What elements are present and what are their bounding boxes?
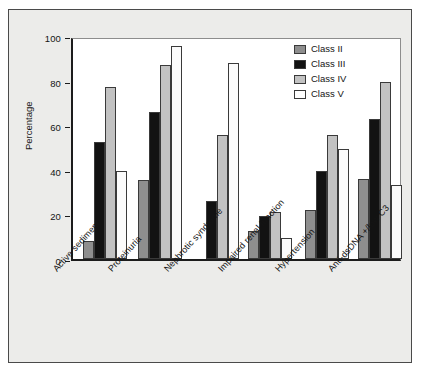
- legend-item[interactable]: Class III: [294, 58, 346, 70]
- legend-item[interactable]: Class V: [294, 88, 346, 100]
- legend-item[interactable]: Class II: [294, 43, 346, 55]
- y-tick-mark: [65, 216, 70, 217]
- bar[interactable]: [105, 87, 116, 259]
- y-tick-label: 100: [35, 33, 61, 44]
- bar[interactable]: [217, 135, 228, 259]
- y-tick-label: 60: [35, 122, 61, 133]
- y-tick-mark: [65, 38, 70, 39]
- bar[interactable]: [358, 179, 369, 259]
- y-tick-mark: [65, 172, 70, 173]
- bar[interactable]: [369, 119, 380, 259]
- chart-page: 020406080100 Percentage Active sedimentP…: [0, 0, 421, 373]
- legend-swatch-icon: [294, 75, 306, 84]
- y-tick-label: 20: [35, 211, 61, 222]
- bar[interactable]: [138, 180, 149, 259]
- plot-area: [71, 38, 401, 261]
- bar[interactable]: [149, 112, 160, 259]
- bar[interactable]: [94, 142, 105, 259]
- bar-group: [138, 39, 182, 259]
- legend-swatch-icon: [294, 90, 306, 99]
- figure-frame: 020406080100 Percentage Active sedimentP…: [8, 9, 412, 363]
- bar[interactable]: [160, 65, 171, 259]
- legend-label: Class III: [311, 59, 345, 69]
- legend-label: Class II: [311, 44, 343, 54]
- y-tick-label: 80: [35, 77, 61, 88]
- legend-label: Class IV: [311, 74, 346, 84]
- bar[interactable]: [391, 185, 402, 259]
- legend-label: Class V: [311, 89, 344, 99]
- legend-swatch-icon: [294, 60, 306, 69]
- bar[interactable]: [327, 135, 338, 259]
- legend-swatch-icon: [294, 45, 306, 54]
- y-axis-title: Percentage: [23, 101, 34, 150]
- chart-legend: Class IIClass IIIClass IVClass V: [294, 43, 346, 100]
- bars-layer: [73, 39, 400, 259]
- legend-item[interactable]: Class IV: [294, 73, 346, 85]
- bar[interactable]: [171, 46, 182, 259]
- y-tick-mark: [65, 127, 70, 128]
- bar[interactable]: [316, 171, 327, 259]
- y-tick-label: 40: [35, 166, 61, 177]
- bar[interactable]: [228, 63, 239, 259]
- y-tick-mark: [65, 83, 70, 84]
- bar[interactable]: [380, 82, 391, 259]
